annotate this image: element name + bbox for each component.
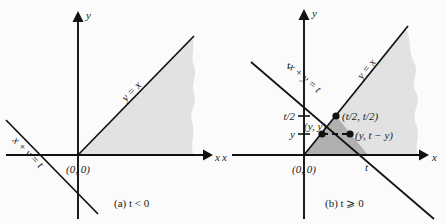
panel-b-y-axis [299,9,310,219]
panel-a-axis-x-label: x [214,151,220,163]
panel-b-origin-label: (0, 0) [292,163,316,176]
panel-b-point-right-label: (y, t − y) [355,129,393,142]
panel-a-y-axis [73,11,84,219]
panel-b-point-right [346,130,353,137]
panel-b-line-x-plus-y-equals-t-label: x + y = t [286,60,325,96]
panel-a-caption: (a) t < 0 [114,197,150,210]
panel-b-axis-x-label-left: x [222,151,227,163]
panel-a-axis-y-label: y [85,9,91,21]
panel-b-point-intersection [332,112,339,119]
panel-b-point-intersection-label: (t/2, t/2) [342,110,378,123]
panel-a-line-x-plus-y-equals-t-label: x + y = t [10,133,47,170]
panel-b-plot: y x x t t/2 y t (0, 0) (t/2, t/2) (y, y)… [222,0,445,224]
panel-b-ytick-y-label: y [289,128,295,140]
panel-a-origin-label: (0, 0) [66,163,90,176]
panel-b-axis-y-label: y [311,7,317,19]
panel-b-axis-x-label: x [431,151,437,163]
panel-b-point-left-label: (y, y) [304,120,326,133]
panel-b-ytick-thalf-label: t/2 [283,110,295,122]
panel-b-caption: (b) t ⩾ 0 [325,197,364,210]
panel-a-plot: y x (0, 0) y = x x + y = t (a) t < 0 [0,0,222,224]
figure-container: y x (0, 0) y = x x + y = t (a) t < 0 [0,0,445,224]
